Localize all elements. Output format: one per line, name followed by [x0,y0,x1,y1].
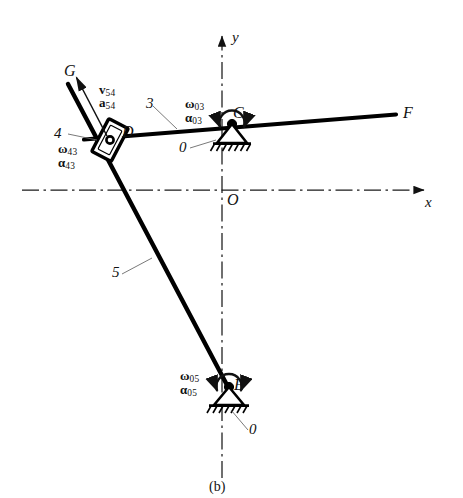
x-axis-label: x [425,195,432,210]
alpha-subscript-05: 05 [187,388,197,398]
omega-symbol-03: ω [185,96,195,111]
ground-label-0-C: 0 [179,140,187,155]
figure-caption: (b) [209,480,225,494]
ground-hatching-C [211,144,251,151]
axis-lines [22,36,424,478]
annotation-alpha-43: α43 [58,156,75,171]
ground-label-0-E: 0 [249,422,257,437]
omega-symbol-05: ω [180,368,190,383]
point-label-G: G [64,63,76,79]
annotation-alpha-05: α05 [180,383,197,398]
pin-joint-D [106,136,113,143]
point-label-C: C [233,105,244,121]
leader-line-5 [122,258,152,274]
ground-hatching-E [207,406,247,413]
leader-line-3 [153,106,177,129]
alpha-subscript-43: 43 [65,161,75,171]
vector-subscript-54-accel: 54 [106,101,116,111]
point-label-F: F [403,105,413,121]
vector-label-a54: a54 [99,96,115,111]
origin-label-O: O [227,192,239,208]
link-label-3: 3 [146,96,154,111]
link-label-5: 5 [112,265,120,280]
annotation-alpha-03: α03 [185,111,202,126]
y-axis-label: y [232,30,239,45]
alpha-subscript-03: 03 [192,116,202,126]
leader-line-0-E [231,410,248,430]
link-label-4: 4 [54,126,62,141]
point-label-E: E [234,377,244,393]
point-label-D: D [122,124,134,140]
omega-symbol-43: ω [58,141,68,156]
